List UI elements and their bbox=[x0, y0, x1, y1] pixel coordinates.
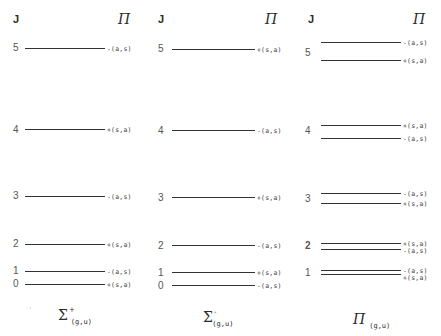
parity-label-lower: +(s,a) bbox=[403, 275, 428, 282]
caption-symbol: Σ bbox=[58, 307, 68, 323]
caption-superscript: + bbox=[69, 306, 75, 314]
parity-label: -(a,s) bbox=[257, 243, 282, 250]
parity-label: -(a,s) bbox=[257, 283, 282, 290]
j-header: J bbox=[308, 13, 314, 25]
panel-pi: J Π 5 -(a,s) +(s,a) 4 +(s,a) -(a,s) 3 -(… bbox=[295, 0, 441, 336]
energy-level bbox=[25, 284, 105, 285]
scan-speck bbox=[30, 307, 31, 309]
parity-label-lower: +(s,a) bbox=[403, 201, 428, 208]
j-label: 1 bbox=[305, 268, 311, 278]
caption-subscript: (g,u) bbox=[212, 320, 233, 328]
energy-level bbox=[172, 49, 255, 50]
parity-label: +(s,a) bbox=[257, 270, 282, 277]
j-label: 1 bbox=[158, 268, 164, 278]
energy-level bbox=[172, 130, 255, 131]
j-label: 4 bbox=[13, 125, 19, 135]
j-label: 2 bbox=[158, 241, 164, 251]
parity-label-lower: +(s,a) bbox=[403, 58, 428, 65]
j-label: 0 bbox=[158, 281, 164, 291]
j-label: 1 bbox=[13, 266, 19, 276]
energy-level bbox=[172, 285, 255, 286]
parity-label: +(s,a) bbox=[107, 242, 132, 249]
panel-sigma-plus: J Π 5 -(a,s) 4 +(s,a) 3 -(a,s) 2 +(s,a) … bbox=[0, 0, 145, 336]
j-label: 4 bbox=[305, 126, 311, 136]
parity-label: +(s,a) bbox=[107, 127, 132, 134]
parity-label-upper: -(a,s) bbox=[403, 40, 428, 47]
state-caption: Π(g,u) bbox=[353, 311, 390, 327]
parity-label: -(a,s) bbox=[257, 128, 282, 135]
caption-subscript: (g,u) bbox=[71, 318, 92, 326]
parity-header: Π bbox=[413, 11, 425, 27]
state-caption: Σ+(g,u) bbox=[58, 307, 92, 323]
parity-label: +(s,a) bbox=[107, 282, 132, 289]
parity-label: +(s,a) bbox=[257, 195, 282, 202]
energy-level-upper bbox=[321, 193, 401, 194]
energy-level bbox=[25, 48, 105, 49]
state-caption: Σ-(g,u) bbox=[203, 309, 233, 325]
parity-label-upper: -(a,s) bbox=[403, 191, 428, 198]
energy-level bbox=[172, 197, 255, 198]
panel-sigma-minus: J Π 5 +(s,a) 4 -(a,s) 3 +(s,a) 2 -(a,s) … bbox=[145, 0, 295, 336]
caption-symbol: Π bbox=[353, 311, 365, 327]
j-label: 5 bbox=[158, 44, 164, 54]
j-label: 5 bbox=[305, 48, 311, 58]
energy-level-lower bbox=[321, 249, 401, 250]
j-label: 4 bbox=[158, 126, 164, 136]
energy-level bbox=[172, 272, 255, 273]
j-label: 2 bbox=[13, 239, 19, 249]
energy-level-lower bbox=[321, 203, 401, 204]
parity-label-upper: +(s,a) bbox=[403, 123, 428, 130]
parity-label: -(a,s) bbox=[107, 194, 132, 201]
caption-subscript: (g,u) bbox=[369, 322, 390, 330]
parity-label: +(s,a) bbox=[257, 47, 282, 54]
parity-header: Π bbox=[118, 11, 130, 27]
energy-level bbox=[25, 271, 105, 272]
j-header: J bbox=[158, 13, 164, 25]
j-label: 3 bbox=[13, 191, 19, 201]
energy-level bbox=[172, 245, 255, 246]
parity-label-lower: -(a,s) bbox=[403, 248, 428, 255]
j-label: 5 bbox=[13, 43, 19, 53]
energy-level-upper bbox=[321, 243, 401, 244]
j-label: 2 bbox=[305, 241, 311, 251]
energy-level bbox=[25, 129, 105, 130]
parity-label: -(a,s) bbox=[107, 269, 132, 276]
j-label: 3 bbox=[305, 194, 311, 204]
energy-level-lower bbox=[321, 274, 401, 275]
parity-header: Π bbox=[265, 11, 277, 27]
energy-level-lower bbox=[321, 138, 401, 139]
j-label: 3 bbox=[158, 193, 164, 203]
energy-level-lower bbox=[321, 60, 401, 61]
energy-level-upper bbox=[321, 125, 401, 126]
caption-superscript: - bbox=[214, 308, 216, 316]
energy-level-upper bbox=[321, 270, 401, 271]
energy-level-upper bbox=[321, 42, 401, 43]
parity-label-lower: -(a,s) bbox=[403, 136, 428, 143]
j-label: 0 bbox=[13, 279, 19, 289]
parity-label: -(a,s) bbox=[107, 46, 132, 53]
energy-level bbox=[25, 244, 105, 245]
energy-level bbox=[25, 196, 105, 197]
j-header: J bbox=[13, 13, 19, 25]
